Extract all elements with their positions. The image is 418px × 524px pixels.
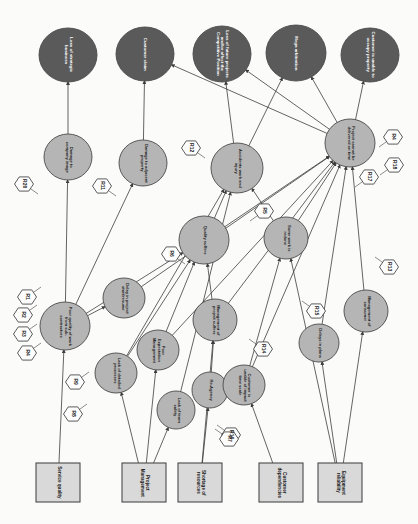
edge-S1-to-E7 <box>59 349 64 463</box>
risk-node-R9[interactable] <box>66 375 85 389</box>
risk-node-R1[interactable] <box>18 290 37 304</box>
edge-E5-to-E3 <box>214 190 226 218</box>
source-node-S5[interactable] <box>318 463 362 502</box>
event-node-E6[interactable] <box>264 217 308 259</box>
event-node-E7[interactable] <box>40 302 90 350</box>
edge-E6-to-E4 <box>298 163 336 221</box>
edge-S4-to-E14 <box>251 403 273 464</box>
diagram-svg <box>0 0 418 524</box>
risk-node-R18[interactable] <box>385 158 404 172</box>
risk-node-R12[interactable] <box>182 141 201 155</box>
risk-node-R15[interactable] <box>307 304 326 318</box>
risk-node-R4[interactable] <box>18 346 37 360</box>
risk-node-R2[interactable] <box>14 308 33 322</box>
edge-E15-to-E4 <box>322 166 346 324</box>
event-node-E3[interactable] <box>211 143 263 193</box>
risk-node-R20[interactable] <box>15 177 34 191</box>
event-node-E9[interactable] <box>95 353 137 393</box>
consequence-node-C3[interactable] <box>193 26 251 82</box>
edge-E7-to-E1 <box>65 180 67 303</box>
risk-node-R17[interactable] <box>360 170 379 184</box>
consequence-node-C1[interactable] <box>39 28 97 82</box>
event-node-E5[interactable] <box>179 216 229 264</box>
risk-node-R3[interactable] <box>14 327 33 341</box>
source-node-S1[interactable] <box>36 463 80 502</box>
edge-E4-to-C4 <box>311 77 337 123</box>
edge-E2-to-C2 <box>143 80 144 140</box>
risk-node-R8[interactable] <box>64 407 83 421</box>
node-layer <box>14 25 404 502</box>
consequence-node-C5[interactable] <box>341 28 399 82</box>
edge-E4-to-C5 <box>355 81 363 120</box>
event-node-E11[interactable] <box>157 391 195 429</box>
event-node-E10[interactable] <box>137 330 179 370</box>
source-node-S3[interactable] <box>178 463 222 502</box>
diagram-canvas: Loss of strategic businessCustomer claim… <box>0 0 418 524</box>
edge-S2-to-E11 <box>153 427 169 465</box>
event-node-E8[interactable] <box>103 278 145 318</box>
event-node-E2[interactable] <box>119 140 167 186</box>
event-node-E4[interactable] <box>325 119 375 167</box>
risk-node-R5[interactable] <box>255 204 274 218</box>
event-node-E16[interactable] <box>344 290 388 332</box>
consequence-node-C4[interactable] <box>266 25 326 81</box>
edge-S2-to-E9 <box>121 392 139 464</box>
risk-node-R4[interactable] <box>384 130 403 144</box>
risk-node-R14[interactable] <box>254 342 273 356</box>
source-node-S4[interactable] <box>259 463 303 502</box>
risk-node-R11[interactable] <box>93 179 112 193</box>
consequence-node-C2[interactable] <box>116 27 174 81</box>
event-node-E13[interactable] <box>192 372 228 408</box>
risk-node-R6[interactable] <box>162 247 181 261</box>
risk-node-R13[interactable] <box>380 260 399 274</box>
event-node-E14[interactable] <box>223 365 265 405</box>
source-node-S2[interactable] <box>122 463 166 502</box>
edge-S5-to-E16 <box>343 331 363 463</box>
edge-E10-to-E5 <box>166 262 195 332</box>
event-node-E1[interactable] <box>44 134 92 180</box>
event-node-E15[interactable] <box>299 324 339 362</box>
edge-S2-to-E10 <box>146 369 156 463</box>
risk-node-R7[interactable] <box>220 432 239 446</box>
event-node-E12[interactable] <box>193 299 237 341</box>
edge-S3-to-E13 <box>202 408 208 464</box>
